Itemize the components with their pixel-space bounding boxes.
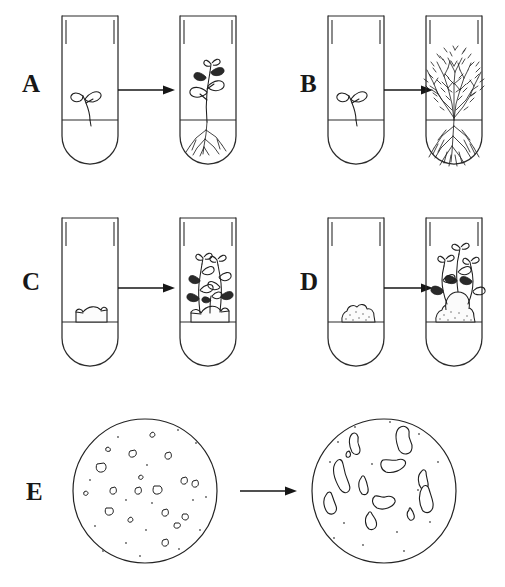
panel-d: D [300,218,485,366]
root-system-a [186,122,226,156]
panel-letter-c: C [22,268,40,295]
petri-dish-before [73,419,217,563]
multiple-shoot-bush-b [424,46,484,166]
plantlet-a-after [186,59,226,156]
panel-a-after-tube [180,16,236,164]
panel-a: A [22,16,236,164]
panel-letter-a: A [22,70,40,97]
seedling-a-before [71,92,101,126]
panel-b-after-tube [424,16,484,166]
shoots-from-explant-c [187,253,233,322]
arrow-c [118,284,175,293]
panel-b: B [300,16,484,166]
panel-c-after-tube [180,218,236,366]
panel-letter-b: B [300,70,317,97]
panel-a-before-tube [62,16,118,164]
callus-d-before [342,305,375,322]
leaf-explant-c-before [76,307,107,322]
figure-canvas: A [0,0,505,587]
panel-c: C [22,218,236,366]
panel-letter-d: D [300,268,318,295]
panel-c-before-tube [62,218,118,366]
seedling-b-before [337,92,367,126]
arrow-a [118,86,175,95]
dish-outline-after [312,419,456,563]
root-system-b [429,120,479,166]
panel-e: E [26,419,456,563]
arrow-e [240,487,297,496]
petri-dish-after [312,419,456,563]
tissue-culture-figure: A [0,0,505,587]
panel-d-before-tube [328,218,384,366]
panel-letter-e: E [26,478,43,505]
shoots-from-callus-d [431,243,485,322]
panel-d-after-tube [426,218,485,366]
dish-outline-before [73,419,217,563]
panel-b-before-tube [328,16,384,164]
